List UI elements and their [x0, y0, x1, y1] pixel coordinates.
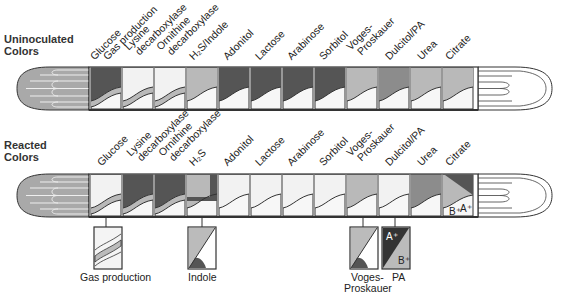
test-compartment	[315, 175, 345, 216]
svg-text:Urea: Urea	[414, 37, 439, 62]
test-compartment	[187, 175, 217, 216]
enterotube-diagram: Uninoculated Colors Reacted Colors B⁺A⁺ …	[0, 0, 563, 303]
tube-cap-left	[17, 67, 89, 110]
svg-text:Citrate: Citrate	[442, 32, 472, 62]
inset-label-indole: Indole	[188, 271, 217, 283]
citrate-a-plus: A⁺	[460, 203, 472, 214]
column-label: Lactose	[252, 133, 287, 168]
column-label: H₂S	[186, 146, 208, 168]
test-compartment	[155, 175, 185, 216]
svg-text:Lactose: Lactose	[252, 133, 287, 168]
test-compartment	[283, 175, 313, 216]
test-compartment	[379, 175, 409, 216]
test-compartment	[251, 175, 281, 216]
column-label: Citrate	[442, 138, 472, 168]
reacted-tube: B⁺A⁺	[17, 174, 552, 217]
inset-indole: Indole	[188, 217, 217, 283]
inset-label-pa: PA	[392, 271, 405, 283]
test-compartment	[347, 175, 377, 216]
column-label: Citrate	[442, 32, 472, 62]
column-label: Lactose	[252, 27, 287, 62]
test-compartment	[347, 68, 377, 109]
uninoculated-tube	[17, 67, 552, 110]
section-title-reacted: Reacted	[4, 139, 47, 151]
test-compartment	[155, 68, 185, 109]
test-compartment: B⁺A⁺	[443, 175, 473, 217]
test-compartment	[91, 175, 121, 216]
inset-pa: A⁺ B⁺ PA	[382, 217, 410, 283]
test-compartment	[379, 68, 409, 109]
test-compartment	[443, 68, 473, 109]
section-title-reacted-2: Colors	[4, 151, 39, 163]
tube-cap-left	[17, 174, 89, 217]
column-label: Urea	[414, 37, 439, 62]
test-compartment	[411, 68, 441, 109]
tube-cap-right	[478, 174, 552, 217]
section-title-uninoculated: Uninoculated	[4, 33, 74, 45]
tube-cap-right	[478, 67, 552, 110]
test-compartment	[219, 175, 249, 216]
svg-text:Urea: Urea	[414, 143, 439, 168]
pa-a-plus: A⁺	[386, 231, 398, 242]
svg-text:Adonitol: Adonitol	[220, 133, 255, 168]
inset-label-proskauer: Proskauer	[344, 282, 392, 294]
column-label: Adonitol	[220, 133, 255, 168]
test-compartment	[123, 175, 153, 216]
test-compartment	[411, 175, 441, 216]
inset-label-gas-production: Gas production	[80, 271, 151, 283]
column-label: Urea	[414, 143, 439, 168]
svg-text:H₂S: H₂S	[186, 146, 208, 168]
pa-b-plus: B⁺	[398, 255, 410, 266]
test-compartment	[187, 68, 217, 109]
test-compartment	[315, 68, 345, 109]
section-title-uninoculated-2: Colors	[4, 45, 39, 57]
svg-text:Citrate: Citrate	[442, 138, 472, 168]
inset-gas-production: Gas production	[80, 217, 151, 283]
test-compartment	[251, 68, 281, 109]
test-compartment	[219, 68, 249, 109]
column-label: Adonitol	[220, 27, 255, 62]
test-compartment	[283, 68, 313, 109]
svg-text:Lactose: Lactose	[252, 27, 287, 62]
test-compartment	[91, 68, 121, 109]
test-compartment	[123, 68, 153, 109]
svg-text:Adonitol: Adonitol	[220, 27, 255, 62]
citrate-b-plus: B⁺	[449, 206, 461, 217]
